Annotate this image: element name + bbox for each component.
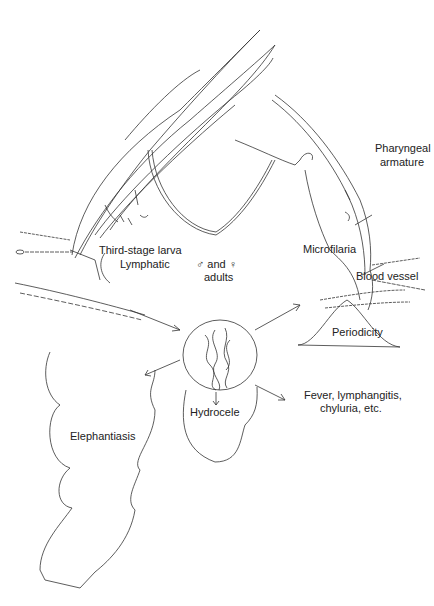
label-periodicity: Periodicity bbox=[332, 326, 383, 339]
diagram-line-art bbox=[0, 0, 434, 606]
label-armature: armature bbox=[380, 156, 424, 169]
adults-cyst bbox=[183, 320, 257, 390]
label-pharyngeal: Pharyngeal bbox=[375, 142, 431, 155]
elephantiasis-leg bbox=[40, 352, 155, 588]
label-elephantiasis: Elephantiasis bbox=[70, 430, 135, 443]
lymphatic-vessel bbox=[15, 283, 145, 315]
periodicity-curve bbox=[298, 300, 400, 347]
label-hydrocele: Hydrocele bbox=[190, 406, 240, 419]
label-third-stage-larva: Third-stage larva bbox=[99, 244, 182, 257]
blood-vessel-line bbox=[320, 290, 405, 300]
label-adults-sex: ♂ and ♀ bbox=[196, 258, 237, 271]
label-chyluria: chyluria, etc. bbox=[320, 402, 382, 415]
proboscis-loop bbox=[148, 150, 275, 235]
label-adults: adults bbox=[204, 271, 233, 284]
filariasis-life-cycle-diagram: Third-stage larva Lymphatic ♂ and ♀ adul… bbox=[0, 0, 434, 606]
hydrocele-outline bbox=[183, 387, 257, 462]
left-mosquito-illustration bbox=[16, 30, 275, 280]
label-blood-vessel: Blood vessel bbox=[356, 270, 418, 283]
label-fever: Fever, lymphangitis, bbox=[304, 389, 402, 402]
label-microfilaria: Microfilaria bbox=[303, 243, 356, 256]
label-lymphatic: Lymphatic bbox=[120, 258, 170, 271]
